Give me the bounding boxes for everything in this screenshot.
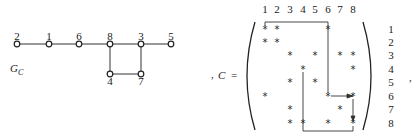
graph-node [168, 41, 174, 47]
matrix-star: * [326, 24, 331, 35]
column-label: 8 [350, 3, 356, 15]
matrix-star: * [288, 118, 293, 129]
left-paren [247, 22, 255, 130]
matrix-star: * [351, 50, 356, 61]
matrix-star: * [275, 24, 280, 35]
matrix-star: * [263, 91, 268, 102]
matrix-star: * [301, 64, 306, 75]
figure-canvas: 21683547 GC , C = 12345678 12345678 ****… [0, 0, 417, 136]
row-label: 5 [388, 76, 394, 88]
row-label: 4 [388, 63, 394, 75]
matrix-column-labels: 12345678 [262, 3, 356, 15]
graph-node-label: 7 [138, 75, 144, 87]
matrix-star: * [351, 118, 356, 129]
column-label: 7 [337, 3, 343, 15]
matrix-name: C [218, 69, 226, 81]
graph-node-label: 8 [107, 30, 113, 42]
row-label: 8 [388, 117, 394, 129]
graph-node [14, 41, 20, 47]
matrix-star: * [338, 50, 343, 61]
row-label: 3 [388, 49, 394, 61]
graph-node [76, 41, 82, 47]
matrix-star: * [263, 37, 268, 48]
graph-node-label: 1 [46, 30, 52, 42]
matrix-star: * [288, 104, 293, 115]
graph-node-label: 2 [14, 30, 20, 42]
matrix-star: * [275, 37, 280, 48]
matrix-entries: ********************** [263, 24, 356, 129]
column-label: 5 [312, 3, 318, 15]
row-label: 1 [388, 23, 394, 35]
graph-edges [17, 44, 171, 74]
graph-node-label: 3 [138, 30, 144, 42]
graph-node [46, 41, 52, 47]
right-paren [363, 22, 371, 130]
row-label: 7 [388, 103, 394, 115]
matrix-star: * [313, 77, 318, 88]
graph-node [138, 41, 144, 47]
matrix-prefix-comma: , [211, 68, 214, 80]
row-label: 6 [388, 90, 394, 102]
matrix-star: * [326, 118, 331, 129]
column-label: 3 [287, 3, 293, 15]
row-label: 2 [388, 36, 394, 48]
trailing-comma: , [409, 71, 412, 83]
graph-node-labels: 21683547 [14, 30, 174, 87]
matrix-star: * [288, 77, 293, 88]
matrix-row-labels: 12345678 [388, 23, 394, 129]
graph-node-label: 4 [107, 75, 113, 87]
column-label: 4 [300, 3, 306, 15]
graph-node-label: 6 [76, 30, 82, 42]
matrix-star: * [313, 50, 318, 61]
matrix-star: * [288, 50, 293, 61]
matrix-star: * [263, 24, 268, 35]
column-label: 6 [325, 3, 331, 15]
matrix-star: * [351, 64, 356, 75]
column-label: 2 [274, 3, 280, 15]
graph-nodes [14, 41, 174, 77]
graph-label: GC [10, 62, 24, 77]
matrix-star: * [301, 118, 306, 129]
matrix-star: * [351, 91, 356, 102]
column-label: 1 [262, 3, 268, 15]
matrix-star: * [338, 104, 343, 115]
matrix-equals: = [231, 69, 237, 81]
matrix-star: * [326, 91, 331, 102]
graph-node-label: 5 [168, 30, 174, 42]
graph-node [107, 41, 113, 47]
